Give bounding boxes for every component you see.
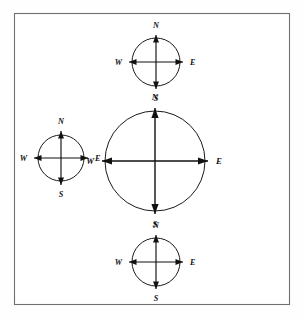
rose-label-south-bottom: S — [154, 294, 159, 303]
rose-label-south-left: S — [59, 190, 64, 199]
rose-label-north-left: N — [57, 117, 65, 126]
compass-rose-figure: NSWENSWENSWENSWE — [0, 0, 305, 318]
rose-label-west-center: W — [86, 156, 95, 166]
rose-label-north-bottom: N — [152, 221, 160, 230]
rose-label-west-left: W — [20, 154, 28, 163]
rose-label-east-bottom: E — [189, 258, 196, 267]
rose-label-west-top: W — [115, 58, 123, 67]
rose-label-east-top: E — [189, 58, 196, 67]
rose-label-east-center: E — [215, 156, 222, 166]
figure-canvas: NSWENSWENSWENSWE — [0, 0, 305, 318]
rose-label-north-center: N — [151, 92, 159, 102]
rose-label-west-bottom: W — [115, 258, 123, 267]
rose-label-east-left: E — [94, 154, 101, 163]
outer-frame — [15, 14, 290, 305]
rose-label-north-top: N — [152, 21, 160, 30]
